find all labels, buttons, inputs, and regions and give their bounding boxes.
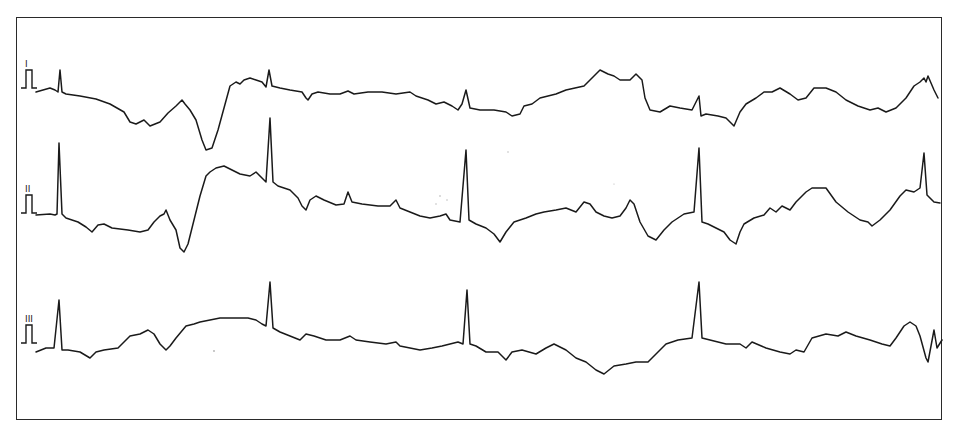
lead-II-calibration-pulse <box>21 195 37 213</box>
lead-I-label: I <box>25 59 28 69</box>
ecg-traces <box>36 70 942 374</box>
lead-II-trace <box>36 118 940 252</box>
lead-II-label: II <box>25 184 30 194</box>
lead-I-calibration-pulse <box>21 70 37 88</box>
lead-III-label: III <box>25 314 33 324</box>
lead-III-calibration-pulse <box>21 325 37 343</box>
calibration-pulses: IIIIII <box>21 59 37 343</box>
lead-I-trace <box>36 70 938 150</box>
ecg-chart: IIIIII <box>0 0 956 432</box>
lead-III-trace <box>36 282 942 374</box>
